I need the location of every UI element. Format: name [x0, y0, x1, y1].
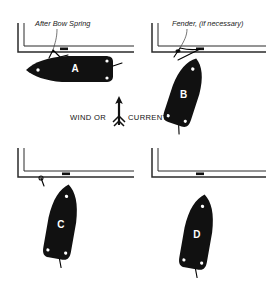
dock-cleat-a	[60, 48, 68, 51]
docking-maneuver-figure: After Bow Spring A Fender, (if necessary…	[0, 0, 269, 289]
figure-background	[0, 0, 269, 289]
hull-letter-b: B	[180, 89, 187, 100]
dock-cleat-d	[196, 173, 204, 176]
label-after-bow-spring: After Bow Spring	[34, 19, 91, 28]
hull-letter-c: C	[57, 219, 64, 230]
hull-letter-d: D	[193, 229, 200, 240]
label-fender: Fender, (if necessary)	[172, 19, 244, 28]
dock-cleat-c	[62, 173, 70, 176]
cleat-a-bow	[36, 68, 39, 71]
hull-letter-a: A	[71, 63, 78, 74]
label-wind-or: WIND OR	[70, 113, 106, 122]
label-current: CURRENT	[128, 113, 168, 122]
cleat-a-stern-starboard	[105, 76, 108, 79]
cleat-a-stern-port	[105, 59, 108, 62]
